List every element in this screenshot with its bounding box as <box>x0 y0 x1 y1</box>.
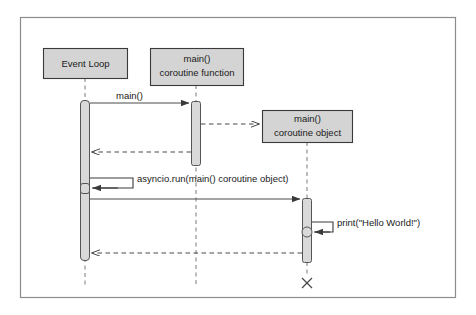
message-label-print-hello-world: print("Hello World!") <box>337 217 420 228</box>
print-lifeline-marker <box>302 227 312 237</box>
participant-box-main-coroutine-function: main() coroutine function <box>151 49 244 86</box>
participant-label-event-loop: Event Loop <box>61 58 109 69</box>
sequence-diagram: Event Loop main() coroutine function mai… <box>0 0 476 315</box>
activation-bar-coroutine-function <box>192 102 201 166</box>
message-label-asyncio-run: asyncio.run(main() coroutine object) <box>137 173 289 184</box>
participant-label-main-line1: main() <box>184 53 211 64</box>
sequence-diagram-canvas: Event Loop main() coroutine function mai… <box>0 0 476 315</box>
asyncio-run-lifeline-marker <box>81 184 90 194</box>
activation-bar-event-loop <box>81 101 90 261</box>
participant-label-main-line2: coroutine function <box>160 67 235 78</box>
participant-box-event-loop: Event Loop <box>44 49 128 79</box>
participant-box-main-coroutine-object: main() coroutine object <box>263 111 353 143</box>
message-label-main-call: main() <box>116 90 143 101</box>
participant-label-object-line2: coroutine object <box>274 127 341 138</box>
participant-label-object-line1: main() <box>294 113 321 124</box>
